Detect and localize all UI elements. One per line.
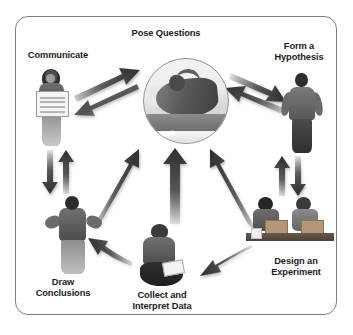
node-image-design-an-experiment [246,196,334,254]
communicate-face-shape [46,74,55,83]
node-image-form-a-hypothesis [281,73,323,153]
label-draw-conclusions: Draw Conclusions [18,277,108,300]
node-image-pose-questions [143,58,229,144]
label-design-an-experiment: Design an Experiment [254,256,338,279]
pose-bed-shape [144,114,228,131]
hypothesis-torso-shape [289,87,316,121]
label-communicate: Communicate [12,50,104,61]
design-beaker-shape [251,228,262,238]
hypothesis-legs-shape [292,119,312,153]
node-image-collect-and-interpret-data [134,224,190,290]
hypothesis-head-shape [295,73,308,87]
draw-torso-shape [59,208,86,241]
node-image-draw-conclusions [46,196,100,274]
diagram-canvas: Pose Questions Communicate Form a Hypoth… [0,0,353,335]
draw-legs-shape [61,240,85,274]
label-pose-questions: Pose Questions [118,28,214,39]
communicate-legs-shape [42,112,61,146]
node-image-communicate [28,70,74,146]
communicate-poster-shape [36,91,68,117]
label-form-a-hypothesis: Form a Hypothesis [258,41,340,64]
label-collect-and-interpret-data: Collect and Interpret Data [108,290,216,313]
